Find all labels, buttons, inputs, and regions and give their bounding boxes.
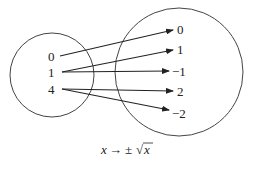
codomain-element-0: 0	[177, 22, 184, 37]
caption-arrow: →	[109, 142, 122, 157]
caption-plus-minus: ±	[125, 142, 132, 157]
codomain-element-2: 2	[177, 84, 184, 99]
codomain-element-neg1: −1	[172, 64, 186, 79]
arrow-0-to-0	[60, 30, 173, 56]
mapping-diagram: 0 1 4 0 1 −1 2 −2 x → ± √ x	[0, 0, 254, 169]
arrow-4-to-neg2	[62, 89, 169, 110]
domain-element-1: 1	[48, 65, 55, 80]
caption-var: x	[100, 142, 107, 157]
codomain-element-neg2: −2	[172, 106, 186, 121]
caption-sqrt-sign: √	[136, 142, 144, 157]
domain-element-0: 0	[48, 49, 55, 64]
codomain-element-1: 1	[177, 42, 184, 57]
caption-formula: x → ± √ x	[100, 142, 153, 157]
arrow-1-to-neg1	[62, 71, 169, 72]
domain-element-4: 4	[48, 82, 55, 97]
caption-radicand: x	[143, 142, 150, 157]
